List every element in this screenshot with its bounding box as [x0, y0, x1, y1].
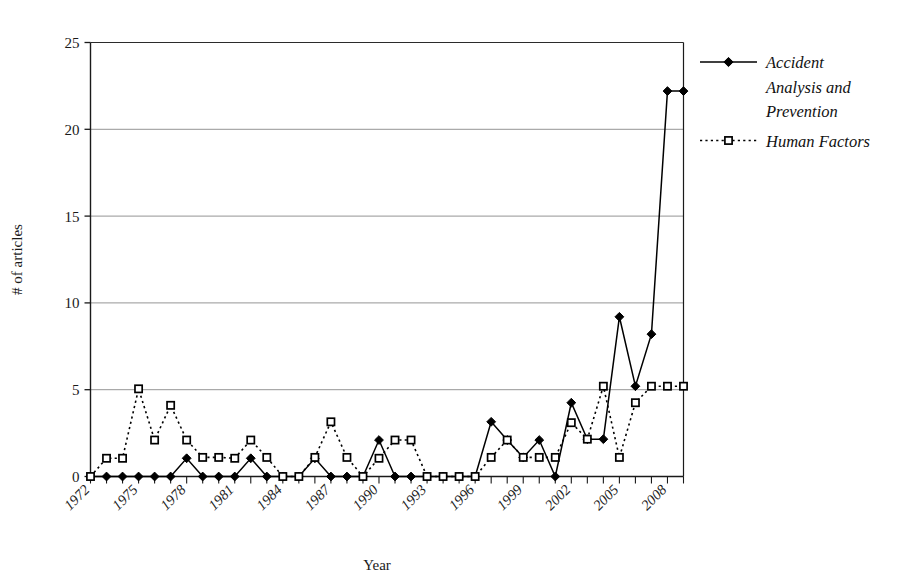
data-point-1988 — [343, 454, 350, 461]
data-point-2001 — [551, 472, 560, 481]
data-point-2006 — [632, 399, 639, 406]
data-point-1991 — [391, 472, 400, 481]
x-tick-label-1981: 1981 — [205, 481, 237, 513]
x-tick-label-2005: 2005 — [590, 481, 622, 513]
y-tick-label-10: 10 — [65, 295, 80, 311]
data-point-1981 — [231, 455, 238, 462]
data-point-1999 — [520, 454, 527, 461]
data-point-1979 — [199, 454, 206, 461]
y-tick-label-5: 5 — [72, 382, 80, 398]
series-accident-analysis-and-prevention — [86, 87, 688, 481]
y-tick-label-0: 0 — [72, 469, 80, 485]
data-point-2009 — [680, 383, 687, 390]
legend-label: Prevention — [765, 102, 838, 121]
y-axis-ticks: 0510152025 — [65, 35, 91, 485]
plot-axes — [91, 43, 684, 477]
data-point-1994 — [439, 473, 446, 480]
legend-marker-diamond-icon — [724, 57, 733, 66]
data-point-2002 — [568, 419, 575, 426]
data-point-1997 — [488, 454, 495, 461]
data-point-2007 — [648, 383, 655, 390]
x-tick-label-1996: 1996 — [445, 481, 477, 513]
data-point-1995 — [456, 473, 463, 480]
data-point-1974 — [119, 455, 126, 462]
data-point-2007 — [647, 330, 656, 339]
y-tick-label-20: 20 — [65, 122, 80, 138]
data-point-2000 — [536, 454, 543, 461]
series-human-factors — [87, 383, 687, 480]
data-point-1972 — [87, 473, 94, 480]
y-tick-label-25: 25 — [65, 35, 80, 51]
legend-label: Human Factors — [765, 132, 870, 151]
data-point-2005 — [616, 454, 623, 461]
x-tick-label-1972: 1972 — [61, 481, 93, 513]
data-point-1980 — [215, 454, 222, 461]
y-tick-label-15: 15 — [65, 209, 80, 225]
data-point-1989 — [359, 473, 366, 480]
legend-entry-human-factors[interactable]: Human Factors — [700, 132, 870, 151]
data-point-1996 — [472, 473, 479, 480]
x-tick-label-2008: 2008 — [638, 481, 670, 513]
y-axis-title: # of articles — [9, 224, 25, 295]
data-point-1984 — [279, 473, 286, 480]
series-line — [91, 386, 684, 476]
data-point-1988 — [343, 472, 352, 481]
axis-titles: # of articlesYear — [9, 224, 391, 573]
data-point-1975 — [135, 385, 142, 392]
data-point-1976 — [150, 472, 159, 481]
data-point-1982 — [247, 436, 254, 443]
line-chart: 0510152025197219751978198119841987199019… — [0, 0, 921, 588]
data-point-1990 — [375, 455, 382, 462]
x-tick-label-1993: 1993 — [397, 481, 429, 513]
data-point-1980 — [214, 472, 223, 481]
x-tick-label-1990: 1990 — [349, 481, 381, 513]
legend-label: Analysis and — [765, 78, 852, 97]
data-point-2003 — [584, 436, 591, 443]
series-line — [91, 91, 684, 476]
data-point-1975 — [134, 472, 143, 481]
x-axis-tick-labels: 1972197519781981198419871990199319961999… — [61, 481, 670, 513]
x-tick-label-1987: 1987 — [301, 481, 333, 513]
data-point-1991 — [391, 436, 398, 443]
data-point-2004 — [599, 435, 608, 444]
x-tick-label-1984: 1984 — [253, 481, 285, 513]
x-axis-title: Year — [363, 557, 391, 573]
legend: AccidentAnalysis andPreventionHuman Fact… — [700, 53, 870, 151]
legend-entry-accident-analysis-and-prevention[interactable]: AccidentAnalysis andPrevention — [700, 53, 852, 121]
data-point-1992 — [407, 436, 414, 443]
data-point-1998 — [504, 436, 511, 443]
x-tick-label-1999: 1999 — [494, 481, 526, 513]
data-point-2008 — [664, 383, 671, 390]
data-point-1976 — [151, 436, 158, 443]
chart-figure: 0510152025197219751978198119841987199019… — [0, 0, 921, 588]
x-tick-label-1978: 1978 — [157, 481, 189, 513]
data-point-1983 — [263, 454, 270, 461]
x-tick-label-2002: 2002 — [542, 481, 574, 513]
legend-marker-square-icon — [725, 137, 732, 144]
data-point-1973 — [103, 455, 110, 462]
data-point-2004 — [600, 383, 607, 390]
data-point-2005 — [615, 312, 624, 321]
x-axis-ticks — [91, 477, 684, 484]
x-tick-label-1975: 1975 — [109, 481, 141, 513]
data-point-1986 — [311, 454, 318, 461]
data-point-1978 — [183, 436, 190, 443]
data-point-2008 — [663, 87, 672, 96]
data-point-1985 — [295, 473, 302, 480]
data-point-2001 — [552, 454, 559, 461]
data-point-1974 — [118, 472, 127, 481]
data-point-1977 — [167, 402, 174, 409]
data-point-2002 — [567, 398, 576, 407]
gridlines — [91, 43, 684, 477]
data-point-1973 — [102, 472, 111, 481]
legend-label: Accident — [765, 53, 824, 72]
data-point-1987 — [327, 418, 334, 425]
data-point-1993 — [423, 473, 430, 480]
data-point-2009 — [679, 87, 688, 96]
data-point-1990 — [375, 436, 384, 445]
data-point-1992 — [407, 472, 416, 481]
